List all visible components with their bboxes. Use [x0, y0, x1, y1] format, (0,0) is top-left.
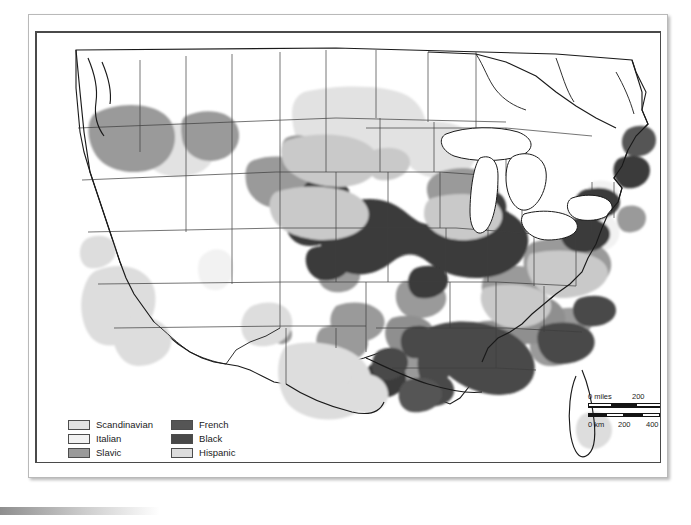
legend-swatch-french — [171, 420, 193, 430]
legend-item-german: German — [68, 460, 153, 463]
legend-swatch-hispanic — [171, 448, 193, 458]
legend-swatch-black — [171, 434, 193, 444]
scale-km-track — [588, 413, 661, 419]
legend-label-french: French — [199, 419, 229, 430]
map-legend: Scandinavian Italian Slavic German — [68, 418, 308, 463]
scale-km-labels: 0 km 200 400 600 — [588, 420, 661, 430]
scale-miles-labels: 0 miles 200 400 — [588, 392, 661, 402]
legend-swatch-slavic — [68, 448, 90, 458]
legend-item-hispanic: Hispanic — [171, 446, 249, 459]
legend-item-italian: Italian — [68, 432, 153, 445]
legend-swatch-italian — [68, 434, 90, 444]
legend-label-black: Black — [199, 433, 222, 444]
legend-label-scandinavian: Scandinavian — [96, 419, 153, 430]
legend-swatch-german — [68, 462, 90, 464]
legend-item-scandinavian: Scandinavian — [68, 418, 153, 431]
legend-item-slavic: Slavic — [68, 446, 153, 459]
legend-label-scotch-irish: Scotch-Irish — [199, 461, 249, 463]
scale-km-tick-400: 400 — [646, 420, 659, 429]
legend-label-hispanic: Hispanic — [199, 447, 235, 458]
figure-card: 0 miles 200 400 — [28, 14, 668, 478]
scale-miles-unit: 0 miles — [588, 392, 612, 401]
map-frame: 0 miles 200 400 — [35, 31, 661, 463]
scale-km-unit: 0 km — [588, 420, 604, 429]
scale-miles-track — [588, 403, 661, 412]
legend-swatch-scotch-irish — [171, 462, 193, 464]
legend-label-italian: Italian — [96, 433, 121, 444]
bottom-gradient-bar — [0, 507, 160, 515]
legend-swatch-scandinavian — [68, 420, 90, 430]
legend-label-german: German — [96, 461, 130, 463]
legend-item-black: Black — [171, 432, 249, 445]
page-root: 0 miles 200 400 — [0, 0, 691, 525]
scale-bar: 0 miles 200 400 — [588, 392, 661, 430]
us-ethnic-origins-map — [36, 32, 661, 463]
legend-item-french: French — [171, 418, 249, 431]
legend-column-left: Scandinavian Italian Slavic German — [68, 418, 153, 463]
scale-km-tick-200: 200 — [618, 420, 631, 429]
legend-label-slavic: Slavic — [96, 447, 121, 458]
legend-column-right: French Black Hispanic Scotch-Irish — [171, 418, 249, 463]
legend-item-scotch-irish: Scotch-Irish — [171, 460, 249, 463]
scale-miles-tick-200: 200 — [632, 392, 645, 401]
